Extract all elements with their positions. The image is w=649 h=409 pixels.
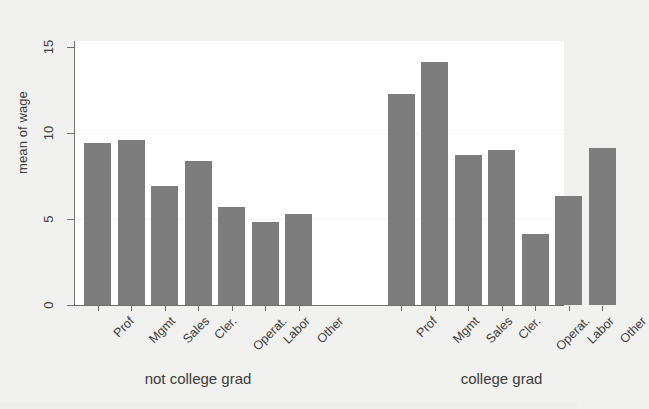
bar-college-grad-other — [589, 148, 616, 305]
x-tick-mark — [265, 306, 266, 311]
bar-not-college-grad-operat — [218, 207, 245, 305]
bar-college-grad-sales — [455, 155, 482, 305]
x-tick-mark — [468, 306, 469, 311]
y-tick-5: 5 — [44, 219, 74, 220]
x-label-college-grad-cler: Cler. — [515, 314, 543, 342]
x-label-college-grad-prof: Prof — [414, 314, 440, 340]
y-tick-mark — [67, 47, 74, 48]
x-label-not-college-grad-cler: Cler. — [212, 314, 240, 342]
x-tick-mark — [232, 306, 233, 311]
y-tick-15: 15 — [44, 47, 74, 48]
x-tick-mark — [569, 306, 570, 311]
y-tick-label: 10 — [40, 122, 58, 144]
bar-college-grad-prof — [388, 94, 415, 305]
x-label-not-college-grad-other: Other — [314, 314, 346, 346]
y-tick-10: 10 — [44, 133, 74, 134]
bar-college-grad-operat — [522, 234, 549, 305]
y-tick-label: 15 — [40, 36, 58, 58]
bar-not-college-grad-mgmt — [118, 140, 145, 305]
bar-not-college-grad-sales — [151, 186, 178, 305]
bar-college-grad-labor — [555, 196, 582, 305]
group-label-college-grad: college grad — [382, 370, 622, 387]
x-tick-mark — [131, 306, 132, 311]
group-label-not-college-grad: not college grad — [78, 370, 318, 387]
y-tick-label: 5 — [40, 208, 58, 230]
figure-background-bottom — [0, 403, 577, 409]
figure-background-top — [0, 0, 577, 26]
bar-college-grad-mgmt — [421, 62, 448, 305]
bar-not-college-grad-cler — [185, 161, 212, 305]
y-tick-label: 0 — [40, 294, 58, 316]
y-tick-0: 0 — [44, 305, 74, 306]
x-tick-mark — [198, 306, 199, 311]
x-label-college-grad-other: Other — [617, 314, 649, 346]
bars-layer — [75, 41, 564, 305]
x-label-college-grad-mgmt: Mgmt — [450, 314, 482, 346]
x-tick-mark — [435, 306, 436, 311]
x-axis-line — [74, 305, 564, 306]
x-tick-mark — [502, 306, 503, 311]
x-tick-mark — [602, 306, 603, 311]
x-tick-mark — [98, 306, 99, 311]
x-label-college-grad-sales: Sales — [483, 314, 515, 346]
x-tick-mark — [401, 306, 402, 311]
x-tick-mark — [299, 306, 300, 311]
bar-not-college-grad-prof — [84, 143, 111, 305]
x-label-college-grad-labor: Labor — [584, 314, 617, 347]
x-label-not-college-grad-prof: Prof — [110, 314, 136, 340]
bar-not-college-grad-labor — [252, 222, 279, 305]
x-label-not-college-grad-mgmt: Mgmt — [146, 314, 178, 346]
y-tick-mark — [67, 305, 74, 306]
x-tick-mark — [165, 306, 166, 311]
y-tick-mark — [67, 133, 74, 134]
x-label-not-college-grad-sales: Sales — [180, 314, 212, 346]
bar-college-grad-cler — [488, 150, 515, 305]
x-tick-mark — [535, 306, 536, 311]
y-axis-title: mean of wage — [15, 73, 30, 193]
y-tick-mark — [67, 219, 74, 220]
bar-not-college-grad-other — [285, 214, 312, 305]
